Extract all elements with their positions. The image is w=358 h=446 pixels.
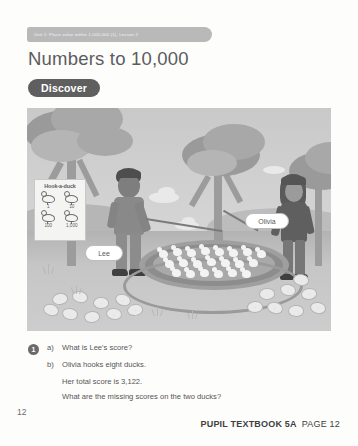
question-block: 1 a) What is Lee's score? b) Olivia hook… [28, 343, 328, 408]
grass-tuft [71, 286, 83, 294]
page-number: 12 [17, 407, 26, 417]
pond-duck [242, 270, 251, 278]
page-title: Numbers to 10,000 [28, 48, 189, 70]
name-label-lee: Lee [85, 245, 123, 261]
pond-duck [228, 269, 237, 277]
pond-duck [257, 250, 266, 258]
pond-duck [207, 258, 216, 266]
textbook-page: Unit 1: Place value within 1,000,000 (1)… [0, 0, 358, 446]
question-part-b: b) Olivia hooks eight ducks. [47, 360, 328, 370]
sign-cell: 10 [61, 191, 84, 209]
discover-label: Discover [41, 82, 87, 94]
sign-price-grid: 1 10 100 1, [37, 191, 83, 228]
pond-duck [215, 248, 224, 256]
name-label-olivia-text: Olivia [258, 218, 276, 225]
discover-badge: Discover [28, 79, 100, 97]
leg-shape [295, 240, 305, 278]
tree-canopy [77, 126, 133, 156]
question-part-b-label: b) [47, 360, 62, 370]
grass-tuft [152, 308, 164, 316]
hook-a-duck-sign: Hook-a-duck 1 10 [34, 179, 86, 241]
question-part-a: a) What is Lee's score? [47, 343, 328, 353]
pond-duck [243, 248, 252, 256]
question-part-b-line3: What are the missing scores on the two d… [62, 392, 328, 401]
grass-tuft [43, 266, 55, 274]
hair-shape [281, 175, 306, 185]
grass-tuft [187, 311, 199, 319]
name-label-olivia: Olivia [245, 213, 289, 229]
pond-duck [200, 269, 209, 277]
pond-duck [179, 259, 188, 267]
pond-duck [186, 270, 195, 278]
footer-book-title: PUPIL TEXTBOOK 5A [200, 419, 296, 429]
question-part-a-text: What is Lee's score? [62, 343, 132, 353]
footer-bar: PUPIL TEXTBOOK 5A PAGE 12 [200, 419, 340, 429]
tree-canopy [187, 150, 237, 176]
question-number-badge: 1 [28, 344, 39, 355]
duck-icon [41, 210, 56, 223]
sign-cell: 100 [37, 210, 60, 228]
hair-shape [117, 169, 141, 178]
footer-page-label: PAGE 12 [302, 419, 340, 429]
duck-icon [64, 210, 79, 223]
pond-duck [229, 249, 238, 257]
unit-tab-label: Unit 1: Place value within 1,000,000 (1)… [34, 32, 138, 37]
unit-tab: Unit 1: Place value within 1,000,000 (1)… [27, 27, 212, 42]
sign-value: 1,000 [66, 224, 78, 229]
lesson-illustration: · · · · · · · · · · · · · · · · · [27, 108, 331, 331]
pond-duck [214, 270, 223, 278]
sign-value: 10 [69, 205, 74, 210]
sign-title: Hook-a-duck [37, 183, 83, 189]
question-part-a-label: a) [47, 343, 62, 353]
cloud-icon [263, 166, 285, 174]
duck-icon [41, 191, 56, 204]
sign-cell: 1,000 [61, 210, 84, 228]
pond-duck [172, 269, 181, 277]
pond-duck [201, 247, 210, 255]
pond-duck [173, 248, 182, 256]
pond-duck [249, 259, 258, 267]
shoe-shape [112, 269, 128, 276]
sign-cell: 1 [37, 191, 60, 209]
question-part-b-line2: Her total score is 3,122. [62, 377, 328, 386]
pond-duck [187, 249, 196, 257]
duck-icon [64, 191, 79, 204]
name-label-lee-text: Lee [98, 250, 110, 257]
sign-value: 100 [44, 224, 52, 229]
question-part-b-text: Olivia hooks eight ducks. [62, 360, 146, 370]
sign-value: 1 [47, 205, 50, 210]
